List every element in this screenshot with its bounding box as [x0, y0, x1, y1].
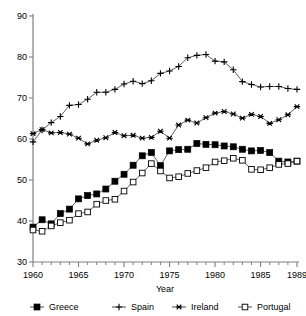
data-point-portugal — [158, 168, 164, 174]
data-point-greece — [258, 147, 264, 153]
line-chart: 3040506070809019601965197019751980198519… — [0, 0, 306, 316]
x-tick-label: 1960 — [23, 270, 43, 280]
data-point-greece — [267, 150, 273, 156]
data-point-greece — [239, 146, 245, 152]
data-point-ireland — [75, 136, 81, 141]
data-point-greece — [139, 153, 145, 159]
data-point-spain — [75, 101, 81, 107]
data-point-portugal — [30, 227, 36, 233]
data-point-spain — [285, 85, 291, 91]
data-point-ireland — [103, 135, 109, 140]
data-point-portugal — [85, 209, 91, 215]
data-point-spain — [294, 86, 300, 92]
data-point-spain — [130, 78, 136, 84]
data-point-ireland — [203, 115, 209, 120]
series-line-spain — [33, 55, 297, 142]
data-point-greece — [148, 150, 154, 156]
data-point-ireland — [139, 136, 145, 141]
data-point-spain — [203, 51, 209, 57]
data-point-ireland — [185, 118, 191, 123]
data-point-spain — [266, 83, 272, 89]
data-point-spain — [121, 81, 127, 87]
data-point-spain — [166, 68, 172, 74]
y-tick-label: 60 — [17, 134, 27, 144]
data-point-ireland — [175, 123, 181, 128]
data-point-portugal — [39, 228, 45, 234]
data-point-greece — [57, 211, 63, 217]
data-point-ireland — [266, 121, 272, 126]
data-point-greece — [230, 144, 236, 150]
data-point-ireland — [112, 130, 118, 135]
data-point-greece — [130, 162, 136, 168]
y-tick-label: 70 — [17, 93, 27, 103]
data-point-greece — [221, 143, 227, 149]
data-point-portugal — [230, 155, 236, 161]
y-tick-label: 80 — [17, 52, 27, 62]
data-point-portugal — [267, 165, 273, 171]
data-point-greece — [203, 141, 209, 147]
legend-marker-greece — [34, 304, 40, 310]
data-point-greece — [167, 148, 173, 154]
data-point-ireland — [157, 129, 163, 134]
data-point-ireland — [94, 138, 100, 143]
y-tick-label: 40 — [17, 216, 27, 226]
data-point-greece — [66, 206, 72, 212]
data-point-ireland — [121, 133, 127, 138]
data-point-greece — [212, 142, 218, 148]
x-tick-label: 1965 — [69, 270, 89, 280]
data-point-portugal — [94, 201, 100, 207]
legend-marker-portugal — [242, 304, 248, 310]
data-point-spain — [30, 139, 36, 145]
data-point-ireland — [166, 136, 172, 141]
data-point-ireland — [130, 133, 136, 138]
data-point-spain — [239, 78, 245, 84]
chart-container: 3040506070809019601965197019751980198519… — [0, 0, 306, 316]
chart-legend: GreeceSpainIrelandPortugal — [30, 302, 291, 312]
data-point-portugal — [167, 175, 173, 181]
data-point-portugal — [48, 223, 54, 229]
series-spain — [30, 51, 300, 145]
data-point-spain — [84, 96, 90, 102]
data-point-greece — [76, 196, 82, 202]
data-point-greece — [194, 141, 200, 147]
x-tick-label: 1980 — [205, 270, 225, 280]
data-point-ireland — [66, 132, 72, 137]
y-tick-label: 30 — [17, 257, 27, 267]
data-point-greece — [121, 171, 127, 177]
series-line-ireland — [33, 107, 297, 144]
legend-marker-spain — [116, 304, 122, 310]
data-point-ireland — [285, 113, 291, 118]
data-point-portugal — [221, 158, 227, 164]
x-axis-title: Year — [156, 284, 174, 294]
data-point-greece — [185, 146, 191, 152]
data-point-greece — [94, 191, 100, 197]
legend-label-portugal: Portugal — [257, 302, 291, 312]
data-point-portugal — [112, 196, 118, 202]
data-point-portugal — [249, 167, 255, 173]
legend-label-spain: Spain — [131, 302, 154, 312]
data-point-greece — [85, 193, 91, 199]
data-point-ireland — [248, 112, 254, 117]
data-point-portugal — [285, 161, 291, 167]
series-ireland — [30, 104, 300, 146]
data-point-portugal — [103, 198, 109, 204]
legend-label-greece: Greece — [49, 302, 79, 312]
data-point-spain — [257, 84, 263, 90]
x-tick-label: 1970 — [114, 270, 134, 280]
data-point-ireland — [148, 135, 154, 140]
data-point-portugal — [294, 158, 300, 164]
data-point-ireland — [194, 121, 200, 126]
data-point-portugal — [276, 162, 282, 168]
data-point-portugal — [149, 161, 155, 167]
data-point-portugal — [258, 167, 264, 173]
data-point-spain — [139, 80, 145, 86]
data-point-ireland — [276, 117, 282, 122]
data-point-greece — [112, 178, 118, 184]
series-line-greece — [33, 144, 297, 228]
data-point-spain — [103, 89, 109, 95]
series-portugal — [30, 155, 300, 234]
data-point-portugal — [67, 217, 73, 223]
data-point-spain — [212, 58, 218, 64]
data-point-ireland — [212, 111, 218, 116]
data-point-spain — [194, 52, 200, 58]
